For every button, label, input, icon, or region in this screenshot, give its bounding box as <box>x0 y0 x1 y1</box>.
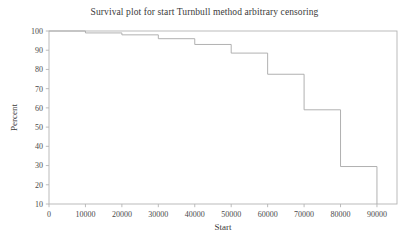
x-tick-label: 30000 <box>148 210 168 219</box>
plot-canvas: 0100002000030000400005000060000700008000… <box>0 0 409 234</box>
x-axis-ticks: 0100002000030000400005000060000700008000… <box>47 204 387 219</box>
x-tick-label: 10000 <box>75 210 95 219</box>
survival-step-line <box>49 31 377 204</box>
x-tick-label: 40000 <box>185 210 205 219</box>
y-tick-label: 90 <box>35 46 43 55</box>
x-tick-label: 50000 <box>221 210 241 219</box>
x-tick-label: 90000 <box>367 210 387 219</box>
x-tick-label: 0 <box>47 210 51 219</box>
y-tick-label: 30 <box>35 161 43 170</box>
x-tick-label: 70000 <box>294 210 314 219</box>
y-tick-label: 20 <box>35 181 43 190</box>
y-tick-label: 80 <box>35 65 43 74</box>
x-axis-title: Start <box>215 222 232 232</box>
y-tick-label: 40 <box>35 142 43 151</box>
y-axis-ticks: 102030405060708090100 <box>31 27 49 209</box>
y-tick-label: 10 <box>35 200 43 209</box>
survival-plot-figure: Survival plot for start Turnbull method … <box>0 0 409 234</box>
y-tick-label: 50 <box>35 123 43 132</box>
plot-frame <box>49 31 397 204</box>
y-tick-label: 60 <box>35 104 43 113</box>
y-tick-label: 70 <box>35 85 43 94</box>
x-tick-label: 20000 <box>112 210 132 219</box>
y-axis-title: Percent <box>9 104 19 131</box>
plot-border <box>49 31 397 204</box>
x-tick-label: 60000 <box>258 210 278 219</box>
y-tick-label: 100 <box>31 27 43 36</box>
x-tick-label: 80000 <box>331 210 351 219</box>
survival-curve-path <box>49 31 377 204</box>
